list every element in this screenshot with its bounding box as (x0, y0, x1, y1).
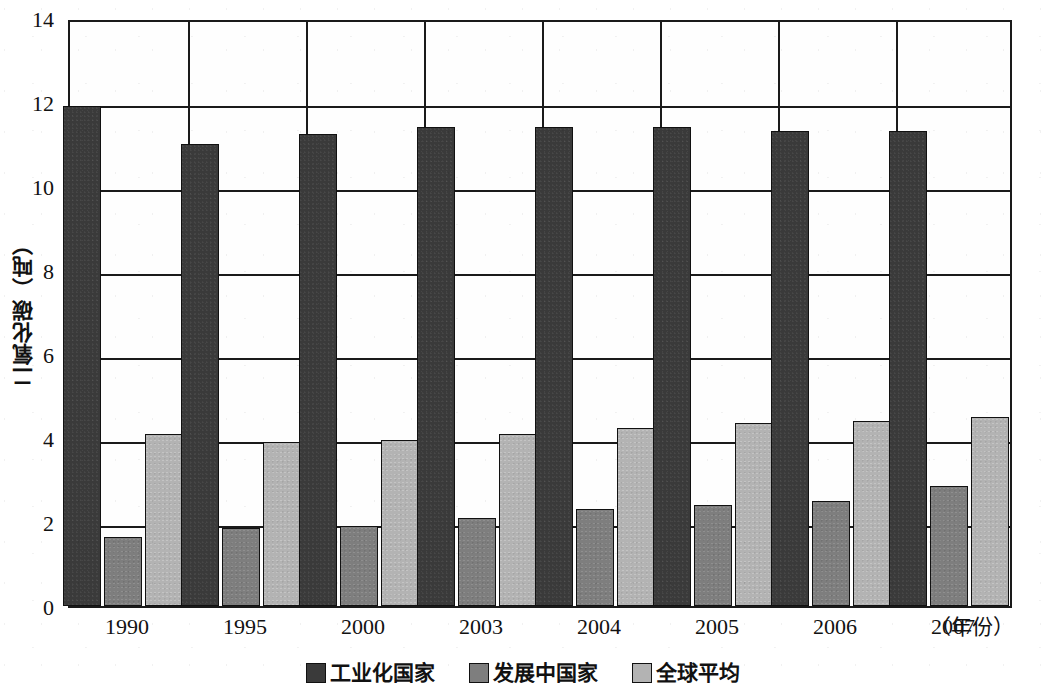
bar (735, 423, 773, 606)
y-axis-tick-labels: 02468101214 (0, 0, 62, 692)
legend-label: 工业化国家 (330, 663, 435, 684)
x-axis-tick-label: 1990 (68, 612, 186, 642)
legend-label: 发展中国家 (493, 663, 598, 684)
x-axis-tick-label: 2006 (776, 612, 894, 642)
bar (181, 144, 219, 606)
bar (535, 127, 573, 606)
y-axis-tick-label: 12 (14, 93, 54, 115)
y-axis-tick-label: 6 (14, 345, 54, 367)
bar (222, 528, 260, 606)
bar-group (778, 22, 896, 606)
bar (889, 131, 927, 606)
bar (63, 106, 101, 606)
bar-group (424, 22, 542, 606)
bar-chart: 二氧化碳（吨） 02468101214 19901995200020032004… (0, 0, 1045, 692)
medium-gray-swatch-icon (469, 663, 489, 683)
bar-group (660, 22, 778, 606)
bar (104, 537, 142, 606)
plot-inner (70, 22, 1010, 606)
bar (263, 442, 301, 606)
dark-gray-swatch-icon (306, 663, 326, 683)
bar (299, 134, 337, 607)
y-axis-tick-label: 0 (14, 597, 54, 619)
bar (381, 440, 419, 606)
light-gray-swatch-icon (632, 663, 652, 683)
y-axis-tick-label: 10 (14, 177, 54, 199)
chart-legend: 工业化国家发展中国家全球平均 (0, 654, 1045, 692)
x-axis-tick-label: 2004 (540, 612, 658, 642)
x-axis-unit-label: （年份） (930, 612, 1014, 642)
bar-group (542, 22, 660, 606)
legend-item: 发展中国家 (469, 663, 598, 684)
legend-item: 工业化国家 (306, 663, 435, 684)
x-axis-tick-label: 2000 (304, 612, 422, 642)
legend-item: 全球平均 (632, 663, 740, 684)
bar (576, 509, 614, 606)
x-axis-tick-labels: 19901995200020032004200520062007 (68, 612, 1012, 648)
bar (812, 501, 850, 606)
plot-area (68, 20, 1012, 608)
bar-group (70, 22, 188, 606)
bar (458, 518, 496, 606)
bar (971, 417, 1009, 606)
legend-label: 全球平均 (656, 663, 740, 684)
bar (853, 421, 891, 606)
bar (145, 434, 183, 606)
bar (340, 526, 378, 606)
x-axis-tick-label: 2003 (422, 612, 540, 642)
y-axis-tick-label: 14 (14, 9, 54, 31)
x-axis-tick-label: 1995 (186, 612, 304, 642)
bar (694, 505, 732, 606)
bar (771, 131, 809, 606)
bar-group (188, 22, 306, 606)
y-axis-tick-label: 4 (14, 429, 54, 451)
bar (617, 428, 655, 607)
x-axis-tick-label: 2005 (658, 612, 776, 642)
bar (499, 434, 537, 606)
bar (653, 127, 691, 606)
bar (417, 127, 455, 606)
bar-group (896, 22, 1014, 606)
y-axis-tick-label: 2 (14, 513, 54, 535)
bar (930, 486, 968, 606)
bar-group (306, 22, 424, 606)
y-axis-tick-label: 8 (14, 261, 54, 283)
